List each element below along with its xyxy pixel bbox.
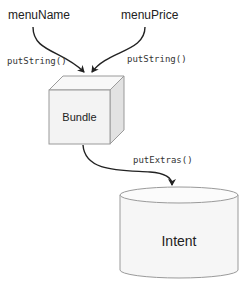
cylinder-top [120, 187, 238, 203]
bundle-label: Bundle [62, 111, 96, 123]
edge-label-putextras: putExtras() [133, 155, 193, 165]
intent-label: Intent [161, 233, 196, 249]
edge-label-putstring-left: putString() [7, 56, 67, 66]
diagram-canvas: menuName menuPrice putString() putString… [0, 0, 247, 291]
source-label-menuprice: menuPrice [121, 8, 179, 22]
arrow-bundle-to-intent [83, 145, 172, 185]
bundle-cube: Bundle [49, 76, 124, 144]
source-label-menuname: menuName [8, 8, 70, 22]
arrow-menuprice-to-bundle [92, 27, 145, 72]
edge-label-putstring-right: putString() [127, 54, 187, 64]
intent-cylinder: Intent [120, 187, 238, 278]
